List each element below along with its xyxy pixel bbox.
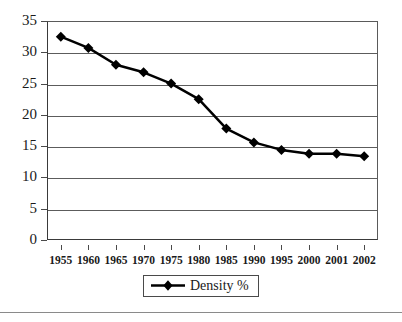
x-tick-mark <box>281 245 282 250</box>
x-axis: 1955196019651970197519801985199019952000… <box>47 245 378 267</box>
x-tick-label: 1985 <box>215 254 238 266</box>
legend-line-icon <box>151 279 185 292</box>
x-tick-label: 1965 <box>104 254 127 266</box>
chart-legend[interactable]: Density % <box>143 275 259 297</box>
x-tick-mark <box>226 245 227 250</box>
data-point-marker: 1995: 14.4 <box>276 145 286 155</box>
x-tick-mark <box>144 245 145 250</box>
chart-figure: 05101520253035 1955: 32.51960: 30.71965:… <box>0 0 402 322</box>
x-tick-label: 1960 <box>77 254 100 266</box>
legend-label: Density % <box>190 278 249 293</box>
x-tick-mark <box>309 245 310 250</box>
y-tick-label: 10 <box>22 169 37 184</box>
y-tick-label: 20 <box>22 107 37 122</box>
y-tick-label: 35 <box>22 13 37 28</box>
x-tick-mark <box>364 245 365 250</box>
x-tick-mark <box>88 245 89 250</box>
x-tick-mark <box>116 245 117 250</box>
data-point-marker: 1955: 32.5 <box>56 32 66 42</box>
x-tick-label: 1990 <box>242 254 265 266</box>
y-tick-label: 5 <box>30 201 38 216</box>
x-tick-label: 1980 <box>187 254 210 266</box>
data-point-marker: 2002: 13.4 <box>359 151 369 161</box>
x-tick-label: 2002 <box>353 254 376 266</box>
y-tick-label: 0 <box>30 232 38 247</box>
y-tick-label: 15 <box>22 138 37 153</box>
data-point-marker: 2000: 13.8 <box>304 149 314 159</box>
x-tick-label: 1970 <box>132 254 155 266</box>
series-line <box>61 37 364 157</box>
x-tick-mark <box>61 245 62 250</box>
x-tick-label: 2000 <box>298 254 321 266</box>
y-tick-label: 25 <box>22 76 37 91</box>
x-tick-mark <box>171 245 172 250</box>
x-tick-label: 1955 <box>49 254 72 266</box>
data-point-marker: 2001: 13.8 <box>332 149 342 159</box>
data-point-marker: 1970: 26.8 <box>139 67 149 77</box>
x-tick-mark <box>199 245 200 250</box>
series-layer: 1955: 32.51960: 30.71965: 281970: 26.819… <box>47 21 378 240</box>
x-tick-label: 2001 <box>325 254 348 266</box>
data-point-marker: 1975: 25 <box>166 79 176 89</box>
x-tick-mark <box>337 245 338 250</box>
y-axis: 05101520253035 <box>0 0 47 262</box>
x-tick-label: 1975 <box>160 254 183 266</box>
data-point-marker: 1990: 15.6 <box>249 137 259 147</box>
bottom-divider <box>0 312 402 313</box>
x-tick-mark <box>254 245 255 250</box>
y-tick-label: 30 <box>22 44 37 59</box>
y-tick-mark <box>41 240 47 241</box>
x-tick-label: 1995 <box>270 254 293 266</box>
